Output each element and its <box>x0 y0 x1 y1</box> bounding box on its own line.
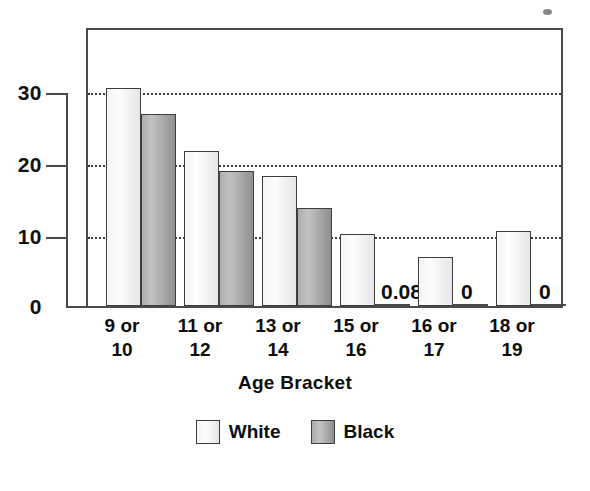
legend-item-white[interactable]: White <box>196 420 281 444</box>
y-tick-mark-10 <box>46 237 66 239</box>
bar-black-11-or-12[interactable] <box>219 171 254 306</box>
bar-white-18-or-19[interactable] <box>496 231 531 306</box>
value-label-black-18-or-19: 0 <box>539 280 551 304</box>
bar-group-15-or-16: 0.08 <box>339 26 411 306</box>
x-tick-label-18-or-19: 18 or 19 <box>457 314 567 362</box>
bar-black-9-or-10[interactable] <box>141 114 176 306</box>
legend: White Black <box>0 420 590 444</box>
bar-group-9-or-10 <box>105 26 177 306</box>
legend-label-white: White <box>229 421 281 443</box>
plot-area: 0.08 0 0 <box>86 28 563 308</box>
legend-item-black[interactable]: Black <box>311 420 395 444</box>
bar-black-13-or-14[interactable] <box>297 208 332 306</box>
y-tick-mark-20 <box>46 165 66 167</box>
x-tick-line2: 19 <box>457 338 567 362</box>
legend-label-black: Black <box>344 421 395 443</box>
y-axis: 30 20 10 0 <box>0 0 86 330</box>
y-axis-zero-tick <box>66 306 86 308</box>
legend-swatch-black-icon <box>311 420 335 444</box>
bar-white-11-or-12[interactable] <box>184 151 219 306</box>
bar-white-16-or-17[interactable] <box>418 257 453 306</box>
y-tick-label-0: 0 <box>30 295 42 319</box>
value-label-black-16-or-17: 0 <box>461 280 473 304</box>
y-axis-spine <box>66 93 68 308</box>
zero-baseline-black-16-or-17 <box>453 304 488 306</box>
zero-baseline-black-18-or-19 <box>531 304 566 306</box>
y-tick-label-10: 10 <box>18 225 42 249</box>
bar-white-9-or-10[interactable] <box>106 88 141 306</box>
y-tick-label-30: 30 <box>18 81 42 105</box>
y-tick-label-20: 20 <box>18 153 42 177</box>
bar-white-15-or-16[interactable] <box>340 234 375 306</box>
bar-group-18-or-19: 0 <box>495 26 567 306</box>
zero-baseline-black-15-or-16 <box>375 304 410 306</box>
y-tick-mark-30 <box>46 93 66 95</box>
legend-swatch-white-icon <box>196 420 220 444</box>
bar-white-13-or-14[interactable] <box>262 176 297 306</box>
bar-chart: 30 20 10 0 <box>0 0 590 491</box>
bar-group-16-or-17: 0 <box>417 26 489 306</box>
bar-group-13-or-14 <box>261 26 333 306</box>
value-label-black-15-or-16: 0.08 <box>381 280 422 304</box>
scan-artifact-speck <box>543 9 552 15</box>
bar-group-11-or-12 <box>183 26 255 306</box>
x-tick-line1: 18 or <box>457 314 567 338</box>
x-axis-title: Age Bracket <box>0 372 590 394</box>
